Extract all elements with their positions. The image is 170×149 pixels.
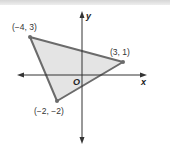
y-axis-top-arrow-icon — [80, 11, 85, 18]
x-axis-left-arrow-icon — [17, 73, 24, 78]
vertex-dot — [121, 60, 125, 64]
vertex-label-b: (3, 1) — [110, 47, 130, 57]
vertex-label-a: (−4, 3) — [12, 22, 37, 32]
vertex-dot — [55, 99, 59, 103]
origin-label: O — [73, 77, 80, 87]
vertex-label-c: (−2, −2) — [34, 106, 64, 116]
y-axis-bottom-arrow-icon — [80, 137, 85, 144]
x-axis-label: x — [140, 77, 147, 87]
coordinate-plane: y x O (−4, 3) (3, 1) (−2, −2) — [0, 0, 170, 149]
vertex-dot — [28, 35, 32, 39]
y-axis-label: y — [85, 11, 92, 21]
